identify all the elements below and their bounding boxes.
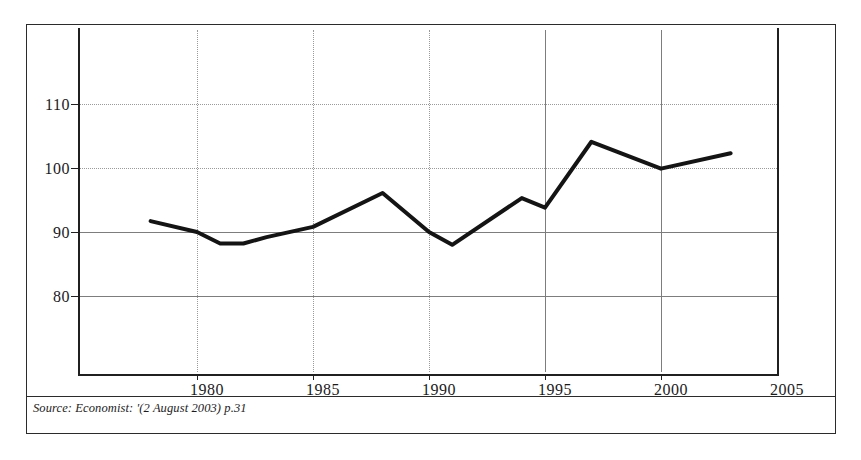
y-tick-mark-90 xyxy=(71,232,78,233)
right-axis-line xyxy=(777,28,779,376)
gridline-x-1990 xyxy=(429,30,430,372)
gridline-y-80 xyxy=(79,296,777,297)
x-tick-mark-1980 xyxy=(197,374,198,380)
y-tick-mark-80 xyxy=(71,296,78,297)
x-tick-mark-2000 xyxy=(661,374,662,380)
y-tick-label-80: 80 xyxy=(53,288,70,306)
y-tick-label-90: 90 xyxy=(53,224,70,242)
gridline-x-1980 xyxy=(197,30,198,372)
x-tick-mark-1985 xyxy=(313,374,314,380)
plot-area xyxy=(79,30,777,372)
source-divider xyxy=(27,396,835,397)
y-axis-labels: 110 100 90 80 xyxy=(0,0,70,460)
y-tick-mark-110 xyxy=(71,104,78,105)
y-tick-label-110: 110 xyxy=(45,96,70,114)
source-note: Source: Economist: '(2 August 2003) p.31 xyxy=(33,401,247,416)
y-axis-line xyxy=(78,28,80,376)
gridline-y-90 xyxy=(79,232,777,233)
gridline-x-2000 xyxy=(661,30,662,372)
gridline-x-1985 xyxy=(313,30,314,372)
y-tick-label-100: 100 xyxy=(45,160,71,178)
x-tick-mark-1995 xyxy=(545,374,546,380)
gridline-x-1995 xyxy=(545,30,546,372)
x-tick-mark-1990 xyxy=(429,374,430,380)
gridline-y-100 xyxy=(79,168,777,169)
y-tick-mark-100 xyxy=(71,168,78,169)
chart-figure: 110 100 90 80 1980 1985 1990 1995 2000 2… xyxy=(0,0,861,460)
gridline-y-110 xyxy=(79,104,777,105)
